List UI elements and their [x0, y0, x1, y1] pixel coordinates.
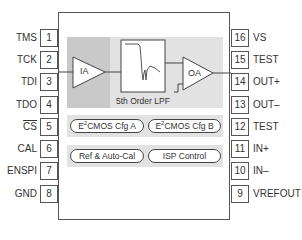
ia-label: IA: [80, 66, 89, 76]
pin-1-box: 1: [40, 29, 58, 47]
isp-control-block: ISP Control: [148, 149, 221, 163]
pin-7-label: ENSPI: [0, 162, 37, 180]
pin-8-label: GND: [0, 185, 37, 203]
pin-9-box: 9: [231, 185, 249, 203]
pin-16-label: VS: [253, 29, 266, 47]
pin-16-box: 16: [231, 29, 249, 47]
oa-label: OA: [188, 68, 201, 78]
ref-autocal-block: Ref & Auto-Cal: [70, 149, 144, 163]
pin-10-label: IN–: [253, 162, 269, 180]
pin-2-label: TCK: [0, 51, 37, 69]
pin-14-label: OUT+: [253, 73, 280, 91]
pin-3-box: 3: [40, 73, 58, 91]
pin-6-label: CAL: [0, 140, 37, 158]
pin-1-label: TMS: [0, 29, 37, 47]
pin-11-box: 11: [231, 140, 249, 158]
pin-4-box: 4: [40, 96, 58, 114]
pin-13-label: OUT–: [253, 96, 280, 114]
pin-12-box: 12: [231, 118, 249, 136]
pin-14-box: 14: [231, 73, 249, 91]
pin-3-label: TDI: [0, 73, 37, 91]
pin-5-box: 5: [40, 118, 58, 136]
pin-10-box: 10: [231, 162, 249, 180]
pin-6-box: 6: [40, 140, 58, 158]
pin-2-box: 2: [40, 51, 58, 69]
pin-7-box: 7: [40, 162, 58, 180]
pin-12-label: TEST: [253, 118, 279, 136]
pin-5-label: CS: [0, 118, 37, 136]
lpf-block: [121, 40, 165, 92]
pin-11-label: IN+: [253, 140, 269, 158]
pin-8-box: 8: [40, 185, 58, 203]
pin-4-label: TDO: [0, 96, 37, 114]
ia-amplifier-icon: [73, 57, 105, 88]
cfg-b-suffix: CMOS Cfg B: [164, 121, 213, 131]
lpf-label: 5th Order LPF: [116, 96, 170, 106]
cfg-a-block: E2CMOS Cfg A: [70, 119, 144, 133]
pin-15-box: 15: [231, 51, 249, 69]
pin-13-box: 13: [231, 96, 249, 114]
cfg-b-block: E2CMOS Cfg B: [148, 119, 221, 133]
cfg-a-suffix: CMOS Cfg A: [87, 121, 136, 131]
pin-9-label: VREFOUT: [253, 185, 301, 203]
pin-15-label: TEST: [253, 51, 279, 69]
